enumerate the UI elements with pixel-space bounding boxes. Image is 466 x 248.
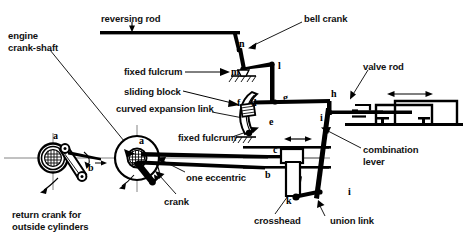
valve-chest: [345, 91, 463, 126]
callout-combination-lever: combination lever: [363, 144, 418, 167]
part-letter-l-bell-crank: l: [278, 61, 281, 71]
callout-valve-rod: valve rod: [363, 61, 404, 73]
part-letter-b-return-crank: b: [88, 163, 94, 173]
part-letter-h-valve-rod: h: [331, 89, 337, 99]
part-letter-k-crosshead: k: [286, 196, 292, 206]
union-link-leader: [317, 200, 325, 216]
part-letter-d-link: d: [251, 98, 257, 108]
callout-one-eccentric: one eccentric: [186, 172, 246, 184]
part-letter-a-return-crank: a: [53, 131, 58, 141]
part-letter-e-link-bottom: e: [269, 117, 273, 127]
part-letter-c-radius-rod: c: [273, 145, 277, 155]
part-letter-b-expansion-link: b: [265, 170, 271, 180]
bell-crank-leader: [248, 22, 302, 50]
callout-fixed-fulcrum-lower: fixed fulcrum: [178, 132, 236, 144]
part-letter-g-radius-rod: g: [283, 93, 288, 103]
valve-gear-diagram: engine crank-shaft reversing rod bell cr…: [0, 0, 466, 248]
return-crank-assembly: [39, 144, 108, 195]
crank-leader: [155, 171, 176, 194]
valve-rod-leader: [350, 70, 368, 100]
part-letter-a-crank: a: [139, 136, 144, 146]
part-letter-m-bell-crank-fulcrum: m: [231, 67, 239, 77]
callout-sliding-block: sliding block: [124, 86, 181, 98]
part-letter-f-sliding-block: f: [237, 98, 240, 108]
radius-rod: [254, 99, 332, 113]
part-letter-i-union-link: i: [348, 187, 351, 197]
callout-bell-crank: bell crank: [304, 13, 347, 25]
callout-engine-crank-shaft: engine crank-shaft: [8, 30, 58, 53]
callout-crosshead: crosshead: [254, 215, 301, 227]
callout-fixed-fulcrum-upper: fixed fulcrum: [124, 66, 182, 78]
callout-curved-expansion-link: curved expansion link: [116, 103, 214, 115]
part-letter-i-valve-rod-joint: i: [320, 113, 323, 123]
engine-crank-shaft-leader: [50, 50, 133, 152]
callout-return-crank-for-outside-cylinders: return crank for outside cylinders: [12, 209, 88, 232]
fixed-fulcrum-upper-leader: [185, 68, 230, 76]
callout-union-link: union link: [330, 215, 374, 227]
callout-crank: crank: [164, 196, 189, 208]
callout-reversing-rod: reversing rod: [101, 13, 160, 25]
part-letter-n-bell-crank-top: n: [239, 39, 245, 49]
link-ground-hatch: [233, 137, 256, 143]
